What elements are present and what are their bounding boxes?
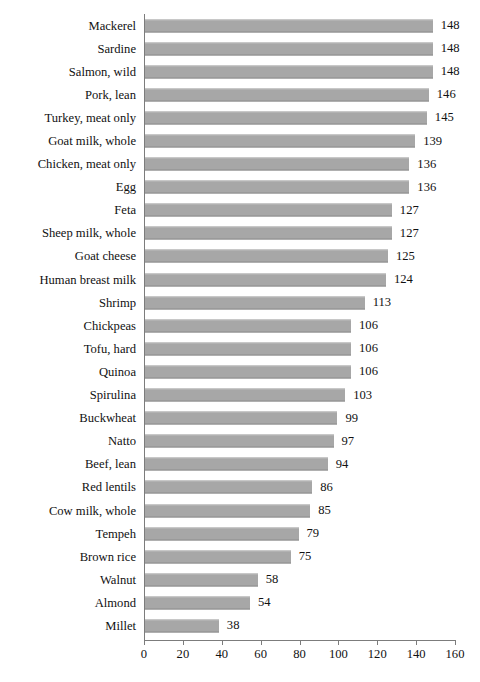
bar (145, 550, 291, 563)
x-axis-tick (144, 640, 145, 645)
bar (145, 158, 409, 171)
bar-row: Beef, lean94 (0, 453, 480, 476)
bar (145, 527, 299, 540)
bar-track: 85 (145, 504, 480, 517)
x-axis-tick (222, 640, 223, 645)
category-label: Sardine (98, 42, 136, 55)
bar (145, 19, 433, 32)
category-label: Walnut (100, 574, 136, 587)
category-label: Pork, lean (85, 89, 136, 102)
category-label: Almond (95, 597, 136, 610)
value-label: 148 (441, 42, 460, 55)
bar-row: Human breast milk124 (0, 268, 480, 291)
bar-track: 106 (145, 365, 480, 378)
bar-row: Chicken, meat only136 (0, 153, 480, 176)
bar-chart: Mackerel148Sardine148Salmon, wild148Pork… (0, 0, 480, 682)
value-label: 106 (359, 319, 378, 332)
x-axis-tick-label: 40 (215, 648, 228, 661)
bar-row: Mackerel148 (0, 14, 480, 37)
bar-track: 148 (145, 19, 480, 32)
x-axis-tick (338, 640, 339, 645)
bar-track: 106 (145, 342, 480, 355)
category-label: Mackerel (88, 19, 136, 32)
x-axis-tick-label: 140 (407, 648, 426, 661)
category-label: Turkey, meat only (45, 112, 136, 125)
category-label: Egg (116, 181, 136, 194)
bar-row: Goat milk, whole139 (0, 129, 480, 152)
bar-track: 99 (145, 412, 480, 425)
category-label: Millet (105, 620, 136, 633)
x-axis-tick (416, 640, 417, 645)
category-label: Tofu, hard (84, 343, 136, 356)
value-label: 97 (342, 435, 355, 448)
category-label: Feta (114, 204, 136, 217)
value-label: 106 (359, 343, 378, 356)
x-axis-tick-label: 80 (293, 648, 306, 661)
x-axis-tick-label: 20 (177, 648, 190, 661)
bar-track: 75 (145, 550, 480, 563)
x-axis: 020406080100120140160 (0, 640, 480, 682)
bar-track: 148 (145, 65, 480, 78)
bar-row: Goat cheese125 (0, 245, 480, 268)
bar (145, 619, 219, 632)
category-label: Chicken, meat only (38, 158, 136, 171)
bar (145, 250, 388, 263)
value-label: 127 (400, 204, 419, 217)
bar-row: Brown rice75 (0, 545, 480, 568)
bar (145, 204, 392, 217)
bar-track: 103 (145, 389, 480, 402)
value-label: 38 (227, 620, 240, 633)
x-axis-tick (183, 640, 184, 645)
bar-track: 125 (145, 250, 480, 263)
bar (145, 181, 409, 194)
bar (145, 227, 392, 240)
bar-track: 127 (145, 227, 480, 240)
value-label: 103 (353, 389, 372, 402)
category-label: Goat cheese (75, 250, 136, 263)
bar-row: Chickpeas106 (0, 314, 480, 337)
category-label: Brown rice (80, 550, 136, 563)
x-axis-tick (300, 640, 301, 645)
category-label: Natto (108, 435, 136, 448)
category-label: Red lentils (82, 481, 136, 494)
bar (145, 135, 415, 148)
bar-track: 97 (145, 435, 480, 448)
chart-title (0, 0, 480, 8)
category-label: Buckwheat (79, 412, 136, 425)
bar-track: 146 (145, 88, 480, 101)
bar (145, 42, 433, 55)
x-axis-tick-label: 160 (446, 648, 465, 661)
value-label: 127 (400, 227, 419, 240)
bar-track: 136 (145, 181, 480, 194)
bar-track: 79 (145, 527, 480, 540)
bar (145, 596, 250, 609)
x-axis-tick-label: 120 (368, 648, 387, 661)
bar-rows: Mackerel148Sardine148Salmon, wild148Pork… (0, 14, 480, 638)
category-label: Spirulina (90, 389, 136, 402)
category-label: Shrimp (99, 296, 136, 309)
value-label: 145 (435, 112, 454, 125)
value-label: 146 (437, 89, 456, 102)
value-label: 58 (266, 574, 279, 587)
x-axis-tick-label: 0 (141, 648, 147, 661)
bar-row: Quinoa106 (0, 360, 480, 383)
bar-track: 106 (145, 319, 480, 332)
bar (145, 111, 427, 124)
bar-track: 54 (145, 596, 480, 609)
value-label: 94 (336, 458, 349, 471)
bar-track: 38 (145, 619, 480, 632)
bar-row: Turkey, meat only145 (0, 106, 480, 129)
bar (145, 389, 345, 402)
bar (145, 458, 328, 471)
bar-track: 139 (145, 135, 480, 148)
category-label: Quinoa (99, 366, 136, 379)
bar (145, 412, 337, 425)
category-label: Tempeh (96, 527, 136, 540)
bar (145, 88, 429, 101)
bar-row: Millet38 (0, 614, 480, 637)
bar-track: 94 (145, 458, 480, 471)
bar-track: 127 (145, 204, 480, 217)
value-label: 86 (320, 481, 333, 494)
value-label: 113 (373, 296, 391, 309)
value-label: 148 (441, 65, 460, 78)
